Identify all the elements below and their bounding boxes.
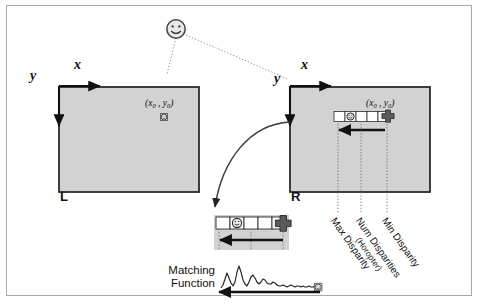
right-axis-y-label: y bbox=[274, 72, 280, 86]
left-point-coordinates: (x0 , y0) bbox=[145, 99, 173, 109]
figure-canvas: y x L (x0 , y0) y x R (x0 , y0) Min Disp… bbox=[0, 0, 482, 305]
matching-function-label: MatchingFunction bbox=[153, 264, 215, 290]
right-axis-x-label: x bbox=[301, 58, 308, 72]
left-axis-x-label: x bbox=[74, 58, 81, 72]
left-axis-y-label: y bbox=[30, 69, 36, 83]
right-panel-name: R bbox=[291, 190, 300, 203]
left-panel-name: L bbox=[60, 190, 68, 203]
right-point-coordinates: (x0 , y0) bbox=[366, 99, 394, 109]
